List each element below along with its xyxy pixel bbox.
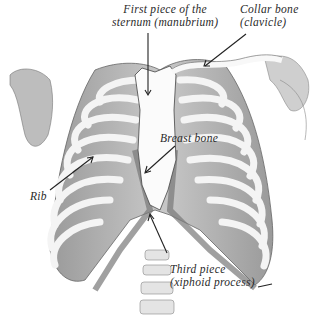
pointer-xiphoid [150,215,167,253]
rib-cage-illustration [0,0,322,318]
right-shoulder [265,56,309,140]
label-xiphoid-line2: (xiphoid process) [170,276,255,289]
rib-cage-diagram: First piece of the sternum (manubrium) C… [0,0,322,318]
label-rib-text: Rib [30,190,47,203]
pointer-xiphoid-tail [258,284,272,287]
label-rib: Rib [30,190,47,203]
label-manubrium-line2: sternum (manubrium) [112,16,218,29]
left-shoulder [10,69,53,146]
label-xiphoid-line1: Third piece [170,263,255,276]
label-breast-bone-text: Breast bone [160,132,218,145]
label-manubrium: First piece of the sternum (manubrium) [112,3,218,29]
label-xiphoid: Third piece (xiphoid process) [170,263,255,289]
label-clavicle-line1: Collar bone [240,3,299,16]
spine [140,250,174,314]
label-manubrium-line1: First piece of the [112,3,218,16]
label-clavicle-line2: (clavicle) [240,16,299,29]
label-clavicle: Collar bone (clavicle) [240,3,299,29]
label-breast-bone: Breast bone [160,132,218,145]
